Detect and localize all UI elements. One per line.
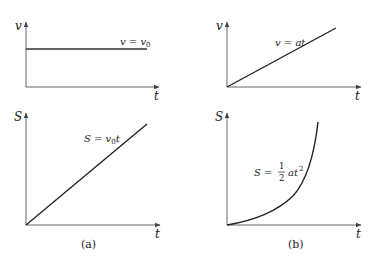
displacement-quadratic-curve xyxy=(227,122,318,225)
kinematics-diagram: v t v = v0 S t S = v0t (a) v t v = at S … xyxy=(0,0,376,266)
svg-text:at: at xyxy=(288,167,299,178)
y-axis-label: S xyxy=(14,110,22,124)
curve-label: v = v0 xyxy=(120,36,151,49)
svg-text:S =: S = xyxy=(254,167,272,178)
y-axis-label: v xyxy=(216,19,223,33)
x-axis-label: t xyxy=(155,227,160,241)
curve-label: S = 1 2 at 2 xyxy=(254,161,303,183)
x-axis-label: t xyxy=(355,89,360,103)
x-axis-label: t xyxy=(154,89,159,103)
y-axis-label: v xyxy=(15,19,22,33)
y-axis-label: S xyxy=(215,110,223,124)
fraction-numerator: 1 xyxy=(279,161,284,171)
x-axis-label: t xyxy=(356,227,361,241)
fraction-denominator: 2 xyxy=(279,173,284,183)
panel-a-velocity-graph: v t v = v0 xyxy=(15,19,159,103)
svg-text:2: 2 xyxy=(299,165,303,173)
panel-a-displacement-graph: S t S = v0t (a) xyxy=(14,110,160,251)
panel-b-velocity-graph: v t v = at xyxy=(216,19,361,103)
curve-label: v = at xyxy=(275,37,306,48)
caption-b: (b) xyxy=(288,238,304,251)
panel-b-displacement-graph: S t S = 1 2 at 2 (b) xyxy=(215,110,361,251)
curve-label: S = v0t xyxy=(84,133,121,146)
caption-a: (a) xyxy=(81,238,96,251)
